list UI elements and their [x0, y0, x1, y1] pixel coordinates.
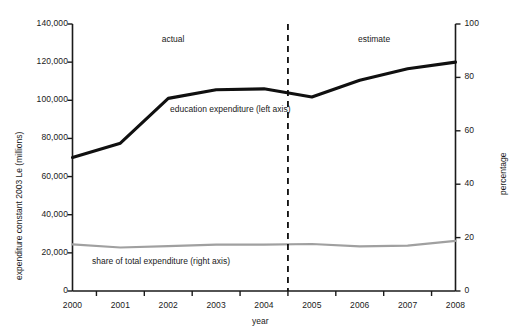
y-tick-label-right: 20 [465, 232, 495, 242]
x-axis-label: year [252, 316, 269, 326]
y-tick-label-right: 0 [465, 285, 495, 295]
y-tick-label-right: 60 [465, 125, 495, 135]
annotation-estimate: estimate [344, 34, 404, 44]
y-tick-label-left: 100,000 [6, 94, 68, 104]
x-tick-label: 2002 [146, 300, 190, 310]
y-tick-label-left: 140,000 [6, 18, 68, 28]
series-label-education-expenditure: education expenditure (left axis) [170, 104, 370, 114]
y-tick-label-right: 80 [465, 71, 495, 81]
y-tick-label-left: 0 [6, 285, 68, 295]
y-tick-label-right: 40 [465, 178, 495, 188]
chart-canvas [0, 0, 511, 333]
chart-figure: 020,00040,00060,00080,000100,000120,0001… [0, 0, 511, 333]
series-label-share-of-total-expenditure: share of total expenditure (right axis) [92, 256, 302, 266]
series-line-share-of-total-expenditure [73, 241, 456, 248]
x-tick-label: 2000 [51, 300, 95, 310]
x-tick-label: 2006 [338, 300, 382, 310]
x-tick-label: 2008 [434, 300, 478, 310]
x-tick-label: 2003 [194, 300, 238, 310]
x-tick-label: 2004 [242, 300, 286, 310]
series-group [73, 62, 456, 247]
y-axis-label-right: percentage [498, 152, 508, 195]
annotation-actual: actual [143, 34, 203, 44]
x-tick-label: 2005 [290, 300, 334, 310]
y-tick-label-right: 100 [465, 18, 495, 28]
x-tick-label: 2001 [98, 300, 142, 310]
y-axis-label-left: expenditure constant 2003 Le (millions) [14, 132, 24, 280]
x-tick-label: 2007 [386, 300, 430, 310]
y-tick-label-left: 120,000 [6, 56, 68, 66]
